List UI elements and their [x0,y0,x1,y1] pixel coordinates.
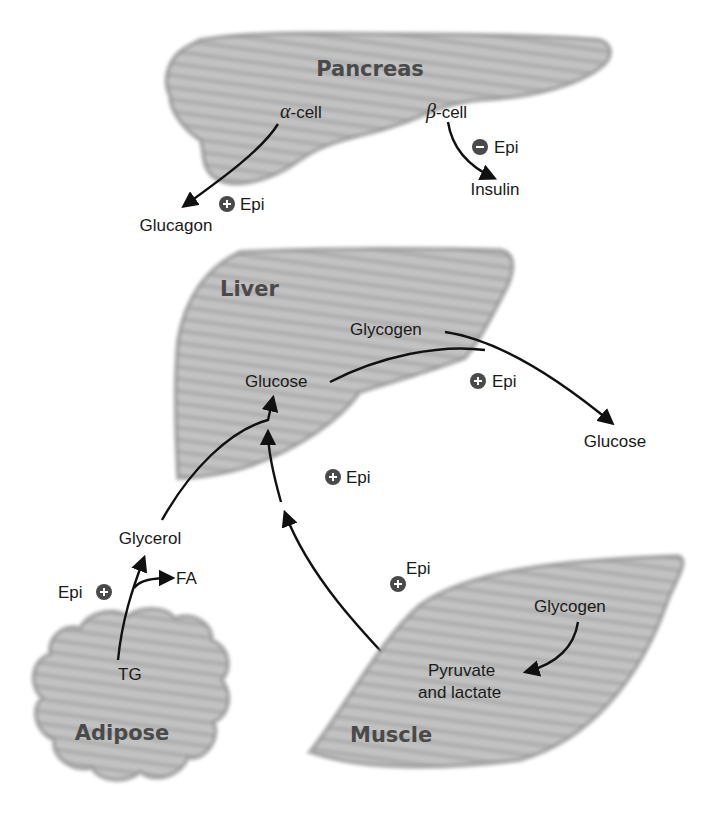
blood-glucose-label: Glucose [584,432,646,451]
svg-text:Epi: Epi [346,468,371,487]
svg-text:Epi: Epi [494,138,519,157]
pancreas-organ: Pancreas α-cell β-cell Glucagon Insulin [140,33,611,235]
epi-stimulator-badge-glucagon: Epi [219,195,265,214]
glycerol-label: Glycerol [119,529,181,548]
beta-cell-label: β-cell [425,100,467,123]
epi-stimulator-badge-liver: Epi [470,372,517,391]
insulin-label: Insulin [470,180,519,199]
muscle-glycogen-label: Glycogen [534,597,606,616]
muscle-organ: Muscle Glycogen Pyruvate and lactate [310,556,683,767]
liver-glucose-label: Glucose [245,372,307,391]
epi-stimulator-badge-adipose: Epi [58,583,112,602]
tg-label: TG [118,665,142,684]
epi-stimulator-badge-muscle: Epi [390,559,431,592]
fa-label: FA [176,569,197,588]
pancreas-title: Pancreas [316,57,424,81]
epi-stimulator-badge-gluconeogenesis: Epi [325,468,371,487]
alpha-cell-label: α-cell [280,100,322,122]
tg-to-fa-arrow [134,578,172,588]
metabolism-diagram: Pancreas α-cell β-cell Glucagon Insulin … [0,0,708,817]
svg-text:Epi: Epi [58,583,83,602]
pancreas-shape [166,33,610,183]
svg-text:Epi: Epi [492,372,517,391]
muscle-title: Muscle [350,723,432,747]
svg-text:Epi: Epi [406,559,431,578]
epi-inhibitor-badge-insulin: Epi [472,138,519,157]
glucagon-label: Glucagon [140,216,213,235]
liver-title: Liver [220,277,280,301]
svg-text:Epi: Epi [240,195,265,214]
liver-organ: Liver Glycogen Glucose Glucose [176,249,646,478]
adipose-shape [34,609,229,780]
liver-glycogen-label: Glycogen [350,320,422,339]
adipose-title: Adipose [75,721,170,745]
